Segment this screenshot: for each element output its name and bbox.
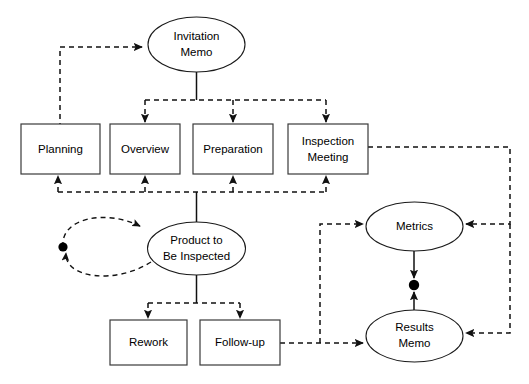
- product-to-be-inspected-label-line1: Product to: [170, 234, 222, 246]
- node-preparation[interactable]: Preparation: [193, 124, 273, 174]
- node-rework[interactable]: Rework: [110, 320, 187, 365]
- preparation-label: Preparation: [203, 143, 262, 155]
- results-memo-label-line2: Memo: [399, 337, 431, 349]
- metrics-results-junction-dot: [409, 280, 419, 290]
- edge-follow-up-to-metrics: [320, 224, 363, 343]
- inspection-meeting-box: [288, 124, 368, 174]
- node-follow-up[interactable]: Follow-up: [200, 320, 280, 365]
- inspection-meeting-label-line2: Meeting: [308, 151, 349, 163]
- invitation-memo-label-line1: Invitation: [173, 30, 219, 42]
- node-inspection-meeting[interactable]: Inspection Meeting: [288, 124, 368, 174]
- node-overview[interactable]: Overview: [110, 124, 180, 174]
- follow-up-label: Follow-up: [215, 336, 265, 348]
- node-planning[interactable]: Planning: [21, 124, 100, 174]
- inspection-process-diagram: Invitation Memo Planning Overview Prepar…: [0, 0, 529, 384]
- invitation-memo-label-line2: Memo: [181, 46, 213, 58]
- overview-label: Overview: [121, 143, 170, 155]
- edge-inspection-meeting-to-results-memo: [466, 224, 510, 333]
- results-memo-ellipse: [366, 310, 463, 362]
- product-to-be-inspected-ellipse: [148, 222, 246, 275]
- diagram-canvas: Invitation Memo Planning Overview Prepar…: [0, 0, 529, 384]
- edge-planning-to-invitation-memo: [60, 47, 142, 128]
- node-product-to-be-inspected[interactable]: Product to Be Inspected: [148, 222, 246, 275]
- invitation-memo-ellipse: [148, 17, 245, 72]
- rework-label: Rework: [129, 336, 168, 348]
- results-memo-label-line1: Results: [395, 321, 434, 333]
- node-invitation-memo[interactable]: Invitation Memo: [148, 17, 245, 72]
- metrics-label: Metrics: [396, 220, 433, 232]
- edge-layer: [58, 47, 510, 343]
- edge-product-self-loop-in: [66, 253, 151, 276]
- node-results-memo[interactable]: Results Memo: [366, 310, 463, 362]
- loop-junction-dot: [58, 242, 67, 251]
- node-metrics[interactable]: Metrics: [366, 202, 463, 251]
- edge-product-self-loop-out: [63, 217, 140, 247]
- product-to-be-inspected-label-line2: Be Inspected: [163, 250, 230, 262]
- inspection-meeting-label-line1: Inspection: [302, 135, 354, 147]
- planning-label: Planning: [38, 143, 83, 155]
